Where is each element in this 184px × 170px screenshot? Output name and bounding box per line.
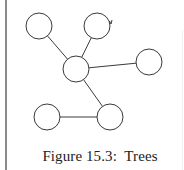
tree-nodes xyxy=(26,13,162,130)
tree-edge-n2-n3 xyxy=(82,38,92,58)
tree-edges xyxy=(48,36,137,117)
tree-node-n4 xyxy=(136,49,162,75)
tree-edge-n3-n6 xyxy=(84,80,103,107)
tree-graph xyxy=(0,0,184,145)
tree-figure: Figure 15.3: Trees xyxy=(0,0,184,170)
tree-node-n6 xyxy=(97,104,123,130)
tree-edge-n3-n4 xyxy=(89,63,136,68)
tree-node-n1 xyxy=(26,13,52,39)
tree-node-n2 xyxy=(84,13,110,39)
figure-caption: Figure 15.3: Trees xyxy=(0,148,184,165)
tree-edge-n1-n3 xyxy=(48,36,68,59)
tree-node-n5 xyxy=(34,104,60,130)
tree-node-n3 xyxy=(63,56,89,82)
